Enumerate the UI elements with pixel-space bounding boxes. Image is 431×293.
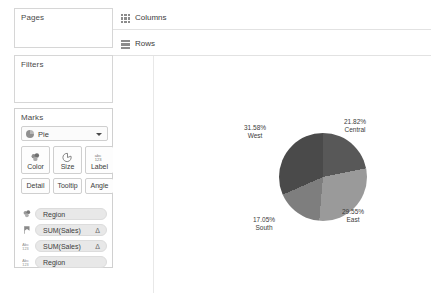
pie-label-west: 31.58% West [244, 124, 266, 140]
columns-shelf[interactable]: Columns [113, 8, 431, 30]
angle-button-label: Angle [91, 182, 109, 190]
pill-label: Region [36, 259, 65, 266]
pill-suffix: Δ [95, 243, 100, 250]
left-sidebar: Pages Filters Marks Pie [0, 0, 113, 293]
color-button-label: Color [27, 163, 44, 173]
rows-shelf[interactable]: Rows [113, 34, 431, 56]
detail-button-label: Detail [27, 182, 45, 190]
pie-label-central-name: Central [344, 126, 366, 134]
size-icon [62, 152, 73, 163]
pill-label: SUM(Sales) [36, 227, 81, 234]
pie-icon [26, 130, 34, 138]
chevron-down-icon[interactable] [96, 133, 102, 136]
marks-pill-row: SUM(Sales) Δ [21, 224, 107, 236]
marks-pill-row: Region [21, 208, 107, 220]
pill-label: SUM(Sales) [36, 243, 81, 250]
svg-text:Abc: Abc [22, 258, 29, 262]
marks-pill-row: Abc 123 SUM(Sales) Δ [21, 240, 107, 252]
pages-card-title: Pages [21, 13, 44, 22]
columns-shelf-label: Columns [135, 13, 167, 22]
tableau-worksheet: Pages Filters Marks Pie [0, 0, 431, 293]
pie-label-central: 21.82% Central [344, 118, 366, 134]
pie-label-west-value: 31.58% [244, 124, 266, 132]
marks-property-buttons: Color Size abc 123 [21, 146, 114, 174]
detail-button[interactable]: Detail [21, 178, 50, 194]
svg-text:123: 123 [22, 247, 28, 251]
marks-pill-row: Abc 123 Region [21, 256, 107, 268]
mark-type-label: Pie [38, 130, 49, 139]
marks-card-title: Marks [21, 113, 43, 122]
pie-label-west-name: West [244, 132, 266, 140]
size-button-label: Size [61, 163, 75, 173]
color-palette-icon [30, 152, 41, 163]
abc123-icon: Abc 123 [21, 241, 32, 252]
pill-region-label[interactable]: Region [35, 256, 107, 268]
label-tag-icon [21, 225, 32, 236]
marks-detail-buttons: Detail Tooltip Angle [21, 178, 114, 194]
pie-label-east-name: East [342, 216, 364, 224]
pill-label: Region [36, 211, 65, 218]
pill-sum-sales-angle[interactable]: SUM(Sales) Δ [35, 224, 107, 236]
mark-type-dropdown[interactable]: Pie [21, 126, 108, 141]
tooltip-button[interactable]: Tooltip [53, 178, 82, 194]
color-button[interactable]: Color [21, 146, 50, 174]
size-button[interactable]: Size [53, 146, 82, 174]
label-button[interactable]: abc 123 Label [85, 146, 114, 174]
pie-label-south-value: 17.05% [253, 216, 275, 224]
tooltip-button-label: Tooltip [57, 182, 77, 190]
viz-canvas[interactable]: 21.82% Central 29.55% East 17.05% South … [153, 56, 431, 293]
filters-card[interactable]: Filters [14, 55, 113, 103]
color-palette-icon [21, 209, 32, 220]
visualization-pane[interactable]: 21.82% Central 29.55% East 17.05% South … [113, 56, 431, 293]
svg-text:Abc: Abc [22, 242, 29, 246]
pie-label-central-value: 21.82% [344, 118, 366, 126]
pie-label-south-name: South [253, 224, 275, 232]
pie-label-east: 29.55% East [342, 208, 364, 224]
pages-card[interactable]: Pages [14, 8, 113, 48]
label-icon: abc 123 [94, 152, 105, 163]
rows-grid-icon [121, 40, 130, 49]
angle-button[interactable]: Angle [85, 178, 114, 194]
svg-text:123: 123 [22, 263, 28, 267]
pill-region-color[interactable]: Region [35, 208, 107, 220]
pie-label-east-value: 29.55% [342, 208, 364, 216]
filters-card-title: Filters [21, 60, 43, 69]
pie-label-south: 17.05% South [253, 216, 275, 232]
svg-text:123: 123 [95, 157, 103, 162]
rows-shelf-label: Rows [135, 39, 155, 48]
label-button-label: Label [91, 163, 108, 173]
marks-card[interactable]: Marks Pie Color [14, 108, 113, 268]
abc123-icon: Abc 123 [21, 257, 32, 268]
pill-sum-sales-label[interactable]: SUM(Sales) Δ [35, 240, 107, 252]
columns-grid-icon [121, 14, 130, 23]
pill-suffix: Δ [95, 227, 100, 234]
